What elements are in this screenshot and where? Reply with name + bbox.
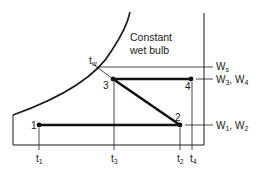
curve-label-line1: Constant: [130, 31, 172, 43]
process-2-3: [113, 79, 180, 125]
point-3-marker: [111, 77, 116, 82]
point-1-label: 1: [31, 120, 37, 131]
w12-label: W1, W2: [216, 120, 248, 132]
point-1-marker: [37, 123, 42, 128]
point-4-label: 4: [185, 81, 191, 92]
saturation-curve: [13, 12, 130, 115]
w34-label: W3, W4: [216, 74, 248, 86]
t1-label: t1: [36, 153, 43, 165]
t4-label: t4: [190, 153, 197, 165]
process-lines: [39, 79, 191, 125]
curve-label-line2: wet bulb: [129, 44, 169, 56]
t3-label: t3: [111, 153, 118, 165]
point-2-marker: [178, 123, 183, 128]
tw-label: tw: [89, 55, 98, 67]
t2-label: t2: [177, 153, 184, 165]
point-2-label: 2: [175, 112, 181, 123]
psychrometric-diagram: Constant wet bulb tw 1 2 3 4 Ws W3, W4 W…: [0, 0, 263, 173]
ws-label: Ws: [216, 61, 229, 73]
point-3-label: 3: [103, 80, 109, 91]
